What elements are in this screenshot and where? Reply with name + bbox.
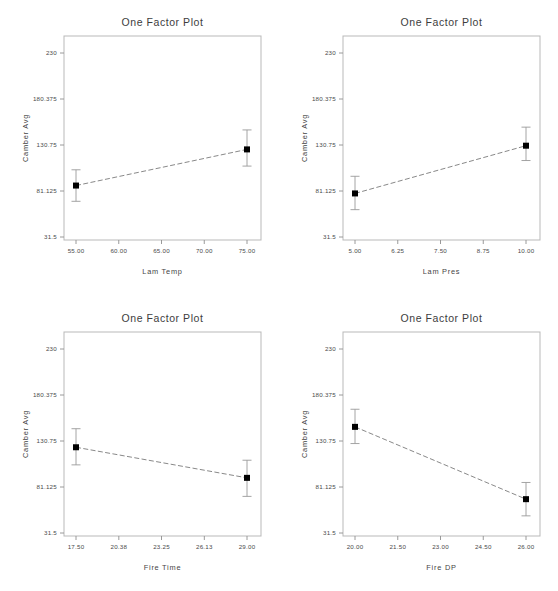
- x-axis-tick-label: 26.13: [196, 543, 213, 550]
- trend-line: [76, 447, 247, 478]
- x-axis-tick-label: 6.25: [391, 247, 404, 254]
- y-axis-tick-label: 230: [325, 49, 336, 56]
- trend-line: [76, 149, 247, 185]
- x-axis-tick-label: 23.25: [153, 543, 170, 550]
- x-axis-tick-label: 7.50: [434, 247, 447, 254]
- plot-svg: One Factor Plot230180.375130.7581.12531.…: [279, 296, 558, 591]
- y-axis-tick-label: 31.5: [44, 233, 57, 240]
- data-point-marker: [352, 424, 358, 430]
- plot-title: One Factor Plot: [401, 16, 483, 28]
- x-axis-title: Fire DP: [426, 563, 456, 572]
- y-axis-tick-label: 81.125: [316, 483, 337, 490]
- y-axis-tick-label: 130.75: [316, 437, 337, 444]
- y-axis-tick-label: 180.375: [312, 95, 336, 102]
- plot-frame: [64, 332, 261, 536]
- x-axis-tick-label: 26.00: [518, 543, 535, 550]
- x-axis-tick-label: 65.00: [153, 247, 170, 254]
- y-axis-tick-label: 130.75: [37, 437, 58, 444]
- y-axis-tick-label: 130.75: [37, 141, 58, 148]
- y-axis-title: Camber Avg: [300, 114, 309, 162]
- x-axis-tick-label: 5.00: [348, 247, 361, 254]
- y-axis-tick-label: 31.5: [323, 529, 336, 536]
- data-point-marker: [73, 183, 79, 189]
- x-axis-tick-label: 55.00: [68, 247, 85, 254]
- plot-svg: One Factor Plot230180.375130.7581.12531.…: [0, 0, 279, 295]
- y-axis-tick-label: 180.375: [33, 95, 57, 102]
- one-factor-plot-panel: One Factor Plot230180.375130.7581.12531.…: [279, 296, 558, 591]
- one-factor-plot-panel: One Factor Plot230180.375130.7581.12531.…: [279, 0, 558, 295]
- y-axis-tick-label: 230: [46, 49, 57, 56]
- x-axis-tick-label: 21.50: [389, 543, 406, 550]
- y-axis-tick-label: 31.5: [44, 529, 57, 536]
- y-axis-tick-label: 81.125: [37, 483, 58, 490]
- trend-line: [355, 146, 526, 194]
- figure-canvas: One Factor Plot230180.375130.7581.12531.…: [0, 0, 558, 591]
- x-axis-tick-label: 70.00: [196, 247, 213, 254]
- one-factor-plot-panel: One Factor Plot230180.375130.7581.12531.…: [0, 0, 279, 295]
- x-axis-title: Lam Temp: [142, 267, 182, 276]
- y-axis-tick-label: 180.375: [312, 391, 336, 398]
- y-axis-tick-label: 130.75: [316, 141, 337, 148]
- y-axis-tick-label: 81.125: [37, 187, 58, 194]
- plot-title: One Factor Plot: [401, 312, 483, 324]
- x-axis-tick-label: 60.00: [110, 247, 127, 254]
- plot-title: One Factor Plot: [122, 312, 204, 324]
- data-point-marker: [523, 496, 529, 502]
- x-axis-tick-label: 20.38: [110, 543, 127, 550]
- y-axis-tick-label: 31.5: [323, 233, 336, 240]
- y-axis-tick-label: 81.125: [316, 187, 337, 194]
- x-axis-tick-label: 10.00: [518, 247, 535, 254]
- data-point-marker: [244, 146, 250, 152]
- y-axis-title: Camber Avg: [300, 410, 309, 458]
- y-axis-title: Camber Avg: [21, 114, 30, 162]
- y-axis-tick-label: 230: [325, 345, 336, 352]
- trend-line: [355, 427, 526, 499]
- data-point-marker: [73, 444, 79, 450]
- y-axis-tick-label: 180.375: [33, 391, 57, 398]
- plot-frame: [343, 36, 540, 240]
- x-axis-tick-label: 8.75: [477, 247, 490, 254]
- y-axis-tick-label: 230: [46, 345, 57, 352]
- one-factor-plot-panel: One Factor Plot230180.375130.7581.12531.…: [0, 296, 279, 591]
- x-axis-tick-label: 20.00: [347, 543, 364, 550]
- plot-frame: [64, 36, 261, 240]
- x-axis-tick-label: 17.50: [68, 543, 85, 550]
- x-axis-title: Lam Pres: [423, 267, 461, 276]
- x-axis-tick-label: 23.00: [432, 543, 449, 550]
- x-axis-tick-label: 75.00: [239, 247, 256, 254]
- data-point-marker: [523, 143, 529, 149]
- data-point-marker: [352, 190, 358, 196]
- plot-svg: One Factor Plot230180.375130.7581.12531.…: [0, 296, 279, 591]
- plot-title: One Factor Plot: [122, 16, 204, 28]
- x-axis-tick-label: 24.50: [475, 543, 492, 550]
- y-axis-title: Camber Avg: [21, 410, 30, 458]
- x-axis-title: Fire Time: [144, 563, 182, 572]
- plot-svg: One Factor Plot230180.375130.7581.12531.…: [279, 0, 558, 295]
- x-axis-tick-label: 29.00: [239, 543, 256, 550]
- data-point-marker: [244, 475, 250, 481]
